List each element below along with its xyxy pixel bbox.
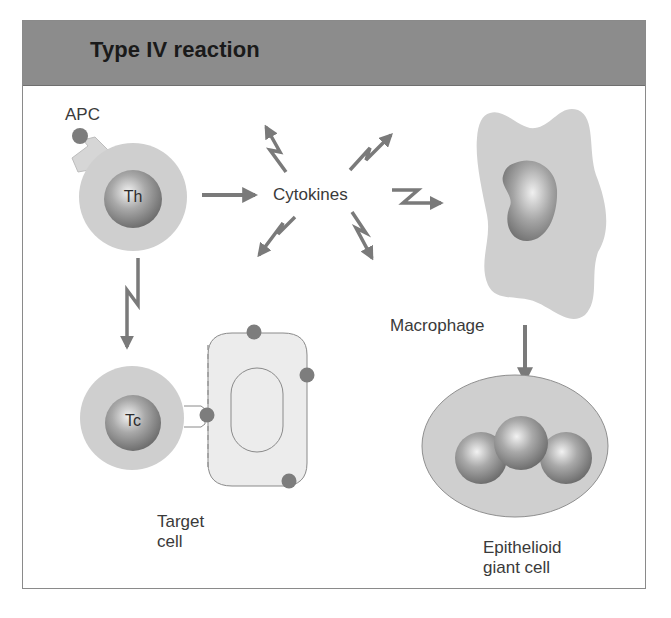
cytokines-label: Cytokines [273, 184, 348, 205]
target-cell-label-line1: Target [157, 511, 204, 532]
giant-cell-label-line1: Epithelioid [483, 537, 561, 558]
target-cell-label-line2: cell [157, 531, 183, 552]
th-label: Th [113, 188, 153, 206]
giant-cell-label-line2: giant cell [483, 557, 550, 578]
tc-label: Tc [113, 412, 153, 430]
macrophage-cell [477, 109, 607, 319]
lightning-up-right-icon [350, 135, 391, 170]
diagram-canvas [0, 0, 671, 618]
macrophage-label: Macrophage [390, 315, 485, 336]
apc-label: APC [65, 104, 100, 125]
epithelioid-giant-cell [422, 375, 608, 517]
antigen-dot [200, 408, 215, 423]
target-cell [200, 325, 315, 489]
lightning-down-right-icon [352, 212, 372, 258]
antigen-dot [282, 474, 297, 489]
lightning-down-left-icon [259, 217, 295, 255]
cytokine-lightning-arrows [127, 127, 441, 347]
lightning-up-left-icon [266, 127, 286, 172]
antigen-dot [300, 368, 315, 383]
apc-antigen-dot [72, 128, 88, 144]
lightning-th-to-tc-icon [127, 258, 138, 347]
lightning-right-icon [392, 190, 441, 203]
antigen-dot [247, 325, 262, 340]
